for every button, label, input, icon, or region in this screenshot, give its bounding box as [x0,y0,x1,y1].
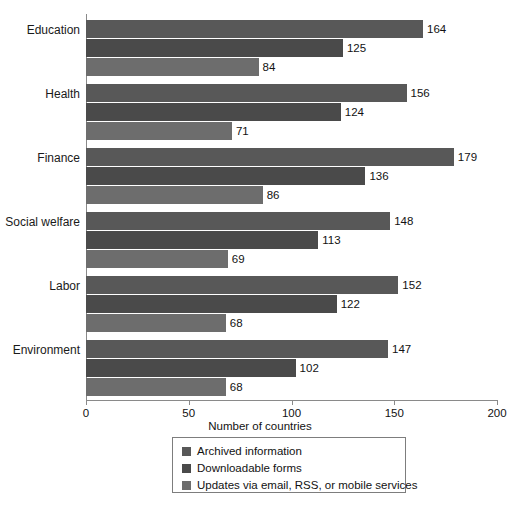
category-axis-labels: EducationHealthFinanceSocial welfareLabo… [0,14,80,400]
bar-group: 15212268 [86,276,497,332]
bar-value-label: 156 [411,85,430,101]
bar-group: 14811369 [86,212,497,268]
bar[interactable] [86,212,390,230]
bar-value-label: 124 [345,104,364,120]
x-tick-label: 50 [182,406,195,420]
bar[interactable] [86,359,296,377]
bar[interactable] [86,103,341,121]
bar-value-label: 69 [232,251,245,267]
category-label-education: Education [27,23,80,37]
bar-value-label: 102 [300,360,319,376]
x-tick-mark [189,400,190,405]
bar[interactable] [86,314,226,332]
legend-swatch-icon [182,447,191,456]
bar[interactable] [86,167,365,185]
x-tick-mark [292,400,293,405]
legend-item[interactable]: Downloadable forms [182,461,405,476]
category-label-finance: Finance [37,151,80,165]
bar-value-label: 68 [230,379,243,395]
x-tick-label: 100 [282,406,301,420]
bar[interactable] [86,250,228,268]
bar-value-label: 179 [458,149,477,165]
bar[interactable] [86,276,398,294]
chart-legend: Archived informationDownloadable formsUp… [172,437,406,493]
bar-value-label: 68 [230,315,243,331]
legend-label: Downloadable forms [197,462,302,475]
x-tick-label: 200 [487,406,506,420]
x-tick-mark [86,400,87,405]
x-tick-label: 0 [83,406,89,420]
bar-value-label: 147 [392,341,411,357]
legend-swatch-icon [182,464,191,473]
x-axis-title: Number of countries [0,419,520,433]
legend-item[interactable]: Archived information [182,444,405,459]
legend-label: Updates via email, RSS, or mobile servic… [197,479,418,492]
bar[interactable] [86,378,226,396]
bar[interactable] [86,20,423,38]
legend-label: Archived information [197,445,302,458]
legend-swatch-icon [182,481,191,490]
bar-group: 14710268 [86,340,497,396]
bar-value-label: 71 [236,123,249,139]
bar-value-label: 84 [263,59,276,75]
bar[interactable] [86,186,263,204]
x-tick-label: 150 [385,406,404,420]
bar[interactable] [86,340,388,358]
bar[interactable] [86,148,454,166]
bar-value-label: 122 [341,296,360,312]
bar-value-label: 125 [347,40,366,56]
bar-group: 15612471 [86,84,497,140]
legend-item[interactable]: Updates via email, RSS, or mobile servic… [182,478,405,493]
bar-value-label: 86 [267,187,280,203]
bar[interactable] [86,122,232,140]
bar-group: 16412584 [86,20,497,76]
bar-group: 17913686 [86,148,497,204]
category-label-labor: Labor [49,279,80,293]
x-tick-mark [497,400,498,405]
bar-chart-figure: EducationHealthFinanceSocial welfareLabo… [0,0,520,505]
bar[interactable] [86,295,337,313]
bar-value-label: 164 [427,21,446,37]
category-label-health: Health [45,87,80,101]
x-tick-mark [394,400,395,405]
bar-value-label: 113 [322,232,340,248]
category-label-social-welfare: Social welfare [5,215,80,229]
bar[interactable] [86,231,318,249]
plot-area: 1641258415612471179136861481136915212268… [86,14,497,400]
bar[interactable] [86,58,259,76]
bar-value-label: 148 [394,213,413,229]
bar[interactable] [86,84,407,102]
category-label-environment: Environment [13,343,80,357]
bar-value-label: 152 [402,277,421,293]
bar-value-label: 136 [369,168,388,184]
bar[interactable] [86,39,343,57]
